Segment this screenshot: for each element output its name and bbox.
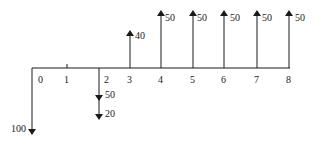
outflow-label-2a: 50	[105, 89, 115, 100]
inflow-label-8: 50	[295, 12, 305, 23]
inflow-label-5: 50	[197, 12, 207, 23]
period-label-8: 8	[286, 74, 291, 85]
period-label-1: 1	[64, 74, 69, 85]
cash-flow-diagram: 0 1 2 3 4 5 6 7 8 100 50 20 40 50 50 50 …	[0, 0, 316, 145]
period-label-3: 3	[127, 74, 132, 85]
inflow-label-4: 50	[165, 12, 175, 23]
outflow-label-2b: 20	[105, 108, 115, 119]
inflow-label-3: 40	[135, 30, 145, 41]
period-label-4: 4	[158, 74, 163, 85]
outflow-label-0: 100	[11, 123, 26, 134]
period-label-2: 2	[104, 74, 109, 85]
period-label-0: 0	[38, 74, 43, 85]
inflow-label-6: 50	[230, 12, 240, 23]
inflow-label-7: 50	[262, 12, 272, 23]
period-label-7: 7	[254, 74, 259, 85]
period-label-6: 6	[221, 74, 226, 85]
period-label-5: 5	[190, 74, 195, 85]
